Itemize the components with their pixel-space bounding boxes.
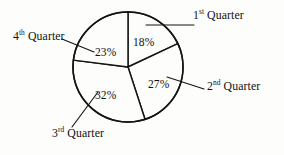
callout-label-3rd-quarter: 3rd Quarter	[52, 126, 104, 141]
slice-value-2nd-quarter: 27%	[148, 78, 170, 90]
ordinal-suffix-3: rd	[58, 125, 64, 134]
pie-chart-canvas: 18% 27% 32% 23%	[0, 0, 284, 155]
callout-label-2nd-quarter: 2nd Quarter	[207, 79, 260, 94]
quarter-noun-4: Quarter	[28, 29, 65, 43]
quarter-noun-1: Quarter	[207, 8, 244, 22]
callout-label-1st-quarter: 1st Quarter	[193, 8, 244, 23]
slice-value-4th-quarter: 23%	[95, 46, 117, 58]
ordinal-suffix-4: th	[19, 28, 25, 37]
pie-chart-figure: 18% 27% 32% 23% 1st Quarter 2nd Quarter …	[0, 0, 284, 155]
quarter-noun-2: Quarter	[224, 79, 261, 93]
slice-value-3rd-quarter: 32%	[95, 89, 117, 101]
ordinal-suffix-2: nd	[213, 78, 221, 87]
pie-slice-4th-quarter	[73, 12, 128, 67]
slice-value-1st-quarter: 18%	[133, 36, 155, 48]
callout-label-4th-quarter: 4th Quarter	[13, 29, 65, 44]
quarter-noun-3: Quarter	[67, 126, 104, 140]
ordinal-suffix-1: st	[199, 7, 204, 16]
